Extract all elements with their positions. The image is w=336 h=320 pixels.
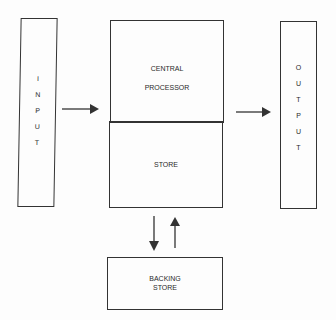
arrow-up-to-store-icon	[170, 217, 180, 248]
arrow-processor-to-output-icon	[236, 107, 271, 117]
arrows-layer	[0, 0, 336, 320]
arrow-down-to-backing-store-icon	[149, 216, 159, 251]
arrow-input-to-processor-icon	[62, 104, 99, 114]
